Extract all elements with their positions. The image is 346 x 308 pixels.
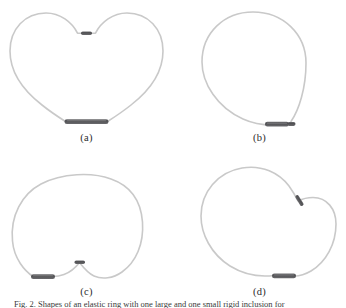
figure-root: (a) (b) (c) (d) Fig. 2. Shapes of an ela… (0, 0, 346, 308)
figure-panel-c (0, 154, 173, 304)
panel-label-a: (a) (0, 132, 173, 143)
panel-a-large-bar-highlight (67, 120, 106, 121)
figure-caption: Fig. 2. Shapes of an elastic ring with o… (14, 300, 344, 308)
panel-b-large-bar (265, 122, 289, 127)
panel-a-filament (10, 13, 163, 122)
panel-d-large-bar (272, 274, 296, 279)
panel-c-drawing (0, 154, 173, 304)
panel-b-large-bar-highlight (267, 123, 287, 124)
panel-label-b: (b) (173, 132, 346, 143)
panel-a-drawing (0, 0, 173, 150)
panel-a-small-bar (81, 31, 92, 35)
panel-d-large-bar-highlight (274, 275, 294, 276)
panel-c-large-bar-highlight (33, 275, 53, 276)
panel-d-small-bar-group (295, 194, 304, 206)
panel-d-drawing (173, 154, 346, 304)
figure-panel-a (0, 0, 173, 150)
panel-label-c: (c) (0, 286, 173, 297)
panel-label-d: (d) (173, 286, 346, 297)
panel-c-small-bar (75, 260, 86, 264)
panel-b-small-bar (288, 122, 296, 126)
figure-panel-d (173, 154, 346, 304)
panel-a-large-bar (65, 119, 109, 124)
figure-caption-strip: Fig. 2. Shapes of an elastic ring with o… (0, 300, 346, 308)
panel-b-filament (202, 12, 306, 125)
figure-panel-b (173, 0, 346, 150)
panel-b-drawing (173, 0, 346, 150)
panel-c-large-bar (31, 274, 55, 279)
panel-d-filament (201, 167, 336, 276)
panel-d-small-bar (295, 194, 304, 206)
